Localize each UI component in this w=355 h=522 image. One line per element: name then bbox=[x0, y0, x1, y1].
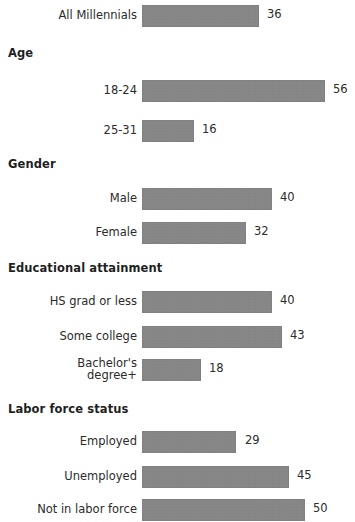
bar-male bbox=[142, 188, 272, 210]
bar-all-millennials bbox=[142, 5, 259, 27]
section-heading-education: Educational attainment bbox=[8, 262, 162, 275]
bar-not-in-labor-force bbox=[142, 499, 305, 521]
bar-wrap-female bbox=[142, 222, 246, 244]
bar-row-hs-grad: HS grad or less 40 bbox=[0, 290, 355, 314]
bar-value-hs-grad: 40 bbox=[280, 294, 295, 307]
bar-employed bbox=[142, 431, 236, 453]
bar-age-18-24 bbox=[142, 80, 325, 102]
bar-row-employed: Employed 29 bbox=[0, 430, 355, 454]
bar-age-25-31 bbox=[142, 120, 194, 142]
bar-value-age-18-24: 56 bbox=[333, 83, 348, 96]
bar-value-all-millennials: 36 bbox=[267, 8, 282, 21]
bar-row-unemployed: Unemployed 45 bbox=[0, 465, 355, 489]
bar-value-unemployed: 45 bbox=[297, 469, 312, 482]
bar-row-age-18-24: 18-24 56 bbox=[0, 79, 355, 103]
bar-bachelors bbox=[142, 359, 201, 381]
bar-label-female: Female bbox=[5, 226, 137, 238]
bar-label-all-millennials: All Millennials bbox=[5, 9, 137, 21]
bar-wrap-all-millennials bbox=[142, 5, 259, 27]
section-heading-age: Age bbox=[8, 47, 33, 60]
bar-value-not-in-labor-force: 50 bbox=[313, 502, 328, 515]
bar-row-all-millennials: All Millennials 36 bbox=[0, 4, 355, 28]
bar-row-age-25-31: 25-31 16 bbox=[0, 119, 355, 143]
bar-label-male: Male bbox=[5, 192, 137, 204]
bar-wrap-hs-grad bbox=[142, 291, 272, 313]
bar-row-male: Male 40 bbox=[0, 187, 355, 211]
bar-row-female: Female 32 bbox=[0, 221, 355, 245]
bar-label-employed: Employed bbox=[5, 435, 137, 447]
bar-row-not-in-labor-force: Not in labor force 50 bbox=[0, 498, 355, 522]
bar-label-age-18-24: 18-24 bbox=[5, 84, 137, 96]
bar-label-bachelors: Bachelor's degree+ bbox=[5, 357, 137, 381]
bar-wrap-employed bbox=[142, 431, 236, 453]
bar-row-bachelors: Bachelor's degree+ 18 bbox=[0, 358, 355, 382]
bar-value-employed: 29 bbox=[245, 434, 260, 447]
bar-wrap-age-18-24 bbox=[142, 80, 325, 102]
bar-value-some-college: 43 bbox=[290, 329, 305, 342]
bar-label-hs-grad: HS grad or less bbox=[5, 295, 137, 307]
bar-unemployed bbox=[142, 466, 289, 488]
bar-wrap-not-in-labor-force bbox=[142, 499, 305, 521]
bar-label-age-25-31: 25-31 bbox=[5, 124, 137, 136]
bar-value-bachelors: 18 bbox=[209, 362, 224, 375]
bar-some-college bbox=[142, 326, 282, 348]
section-heading-labor: Labor force status bbox=[8, 403, 129, 416]
bar-row-some-college: Some college 43 bbox=[0, 325, 355, 349]
bar-wrap-some-college bbox=[142, 326, 282, 348]
bar-female bbox=[142, 222, 246, 244]
bar-wrap-unemployed bbox=[142, 466, 289, 488]
bar-label-not-in-labor-force: Not in labor force bbox=[5, 503, 137, 515]
bar-wrap-male bbox=[142, 188, 272, 210]
bar-label-unemployed: Unemployed bbox=[5, 470, 137, 482]
bar-wrap-age-25-31 bbox=[142, 120, 194, 142]
bar-value-age-25-31: 16 bbox=[202, 123, 217, 136]
bar-label-some-college: Some college bbox=[5, 330, 137, 342]
bar-hs-grad bbox=[142, 291, 272, 313]
bar-value-male: 40 bbox=[280, 191, 295, 204]
bar-wrap-bachelors bbox=[142, 359, 201, 381]
section-heading-gender: Gender bbox=[8, 158, 56, 171]
bar-value-female: 32 bbox=[254, 225, 269, 238]
